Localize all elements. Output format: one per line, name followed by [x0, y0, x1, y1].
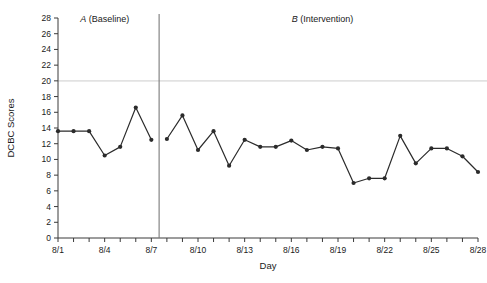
y-axis-tick-label: 14: [42, 123, 52, 133]
data-point: [383, 176, 387, 180]
y-axis-tick-label: 18: [42, 92, 52, 102]
y-axis-tick-label: 12: [42, 139, 52, 149]
data-point: [227, 164, 231, 168]
data-point: [149, 138, 153, 142]
data-point: [336, 146, 340, 150]
data-point: [398, 134, 402, 138]
x-axis-tick-label: 8/19: [330, 245, 347, 255]
data-point: [367, 176, 371, 180]
y-axis-title: DCBC Scores: [5, 98, 16, 157]
phase-label-a: A (Baseline): [79, 14, 129, 24]
data-point: [180, 113, 184, 117]
phase-name: (Intervention): [298, 14, 354, 24]
y-axis-tick-label: 22: [42, 60, 52, 70]
data-point: [445, 146, 449, 150]
abab-line-chart: 02468101214161820222426288/18/48/78/108/…: [0, 0, 487, 283]
phase-letter: A: [79, 14, 86, 24]
y-axis-tick-label: 20: [42, 76, 52, 86]
data-point: [258, 145, 262, 149]
x-axis-tick-label: 8/7: [145, 245, 157, 255]
y-axis-tick-label: 16: [42, 107, 52, 117]
data-point: [305, 148, 309, 152]
data-point: [351, 181, 355, 185]
data-point: [274, 145, 278, 149]
phase-name: (Baseline): [86, 14, 129, 24]
data-point: [429, 146, 433, 150]
data-point: [134, 105, 138, 109]
data-point: [118, 145, 122, 149]
x-axis-tick-label: 8/28: [470, 245, 487, 255]
x-axis-tick-label: 8/10: [190, 245, 207, 255]
x-axis-tick-label: 8/4: [99, 245, 111, 255]
data-point: [289, 138, 293, 142]
x-axis-title: Day: [260, 260, 277, 271]
y-axis-tick-label: 6: [46, 186, 51, 196]
x-axis-tick-label: 8/13: [236, 245, 253, 255]
y-axis-tick-label: 0: [46, 233, 51, 243]
data-point: [71, 129, 75, 133]
chart-container: 02468101214161820222426288/18/48/78/108/…: [0, 0, 487, 283]
data-point: [56, 129, 60, 133]
data-point: [414, 161, 418, 165]
x-axis-tick-label: 8/22: [376, 245, 393, 255]
x-axis-tick-label: 8/16: [283, 245, 300, 255]
y-axis-tick-label: 28: [42, 13, 52, 23]
data-point: [211, 129, 215, 133]
data-point: [165, 137, 169, 141]
data-point: [103, 153, 107, 157]
x-axis-tick-label: 8/25: [423, 245, 440, 255]
y-axis-tick-label: 10: [42, 154, 52, 164]
data-point: [460, 154, 464, 158]
y-axis-tick-label: 26: [42, 29, 52, 39]
y-axis-tick-label: 4: [46, 202, 51, 212]
y-axis-tick-label: 24: [42, 44, 52, 54]
data-point: [243, 138, 247, 142]
phase-label-b: B (Intervention): [292, 14, 354, 24]
x-axis-tick-label: 8/1: [52, 245, 64, 255]
y-axis-tick-label: 8: [46, 170, 51, 180]
data-point: [476, 170, 480, 174]
data-point: [196, 148, 200, 152]
y-axis-tick-label: 2: [46, 217, 51, 227]
data-point: [320, 145, 324, 149]
data-point: [87, 129, 91, 133]
